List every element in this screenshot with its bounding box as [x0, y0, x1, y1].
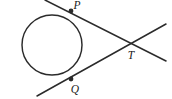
secant-line-through-q: [37, 24, 166, 96]
secant-line-through-p: [45, 0, 166, 61]
geometry-canvas: P Q T: [0, 0, 172, 99]
point-p-label: P: [72, 0, 80, 11]
point-q-marker: [69, 77, 74, 82]
point-q-label: Q: [71, 83, 80, 95]
main-circle: [22, 15, 82, 75]
point-t-label: T: [128, 49, 136, 61]
geometry-figure: P Q T: [0, 0, 172, 99]
